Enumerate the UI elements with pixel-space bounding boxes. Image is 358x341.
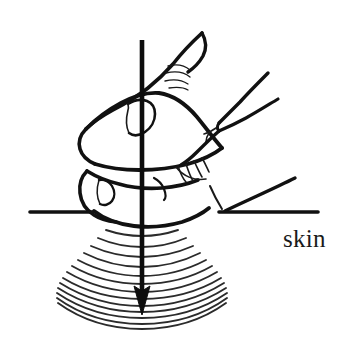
hand-outline-group (79, 33, 295, 227)
line-drawing-illustration (0, 0, 358, 341)
skin-label: skin (283, 226, 326, 251)
figure-container: skin (0, 0, 358, 341)
fingernail-edge (127, 104, 129, 133)
pressing-finger-left-end (79, 129, 95, 164)
right-finger-edge (225, 178, 295, 211)
finger-crease-mark (202, 158, 209, 172)
knuckle-crease-line (166, 72, 190, 77)
right-finger-crease (210, 186, 222, 209)
background-finger-upper (219, 73, 268, 123)
force-arrow-group (134, 40, 150, 315)
knuckle-crease-line (165, 80, 188, 84)
lower-segment-nail-edge (97, 180, 100, 204)
finger-crease-mark (194, 161, 202, 177)
knuckle-crease-line (169, 87, 188, 90)
finger-skin-indentation-contour (94, 208, 209, 227)
